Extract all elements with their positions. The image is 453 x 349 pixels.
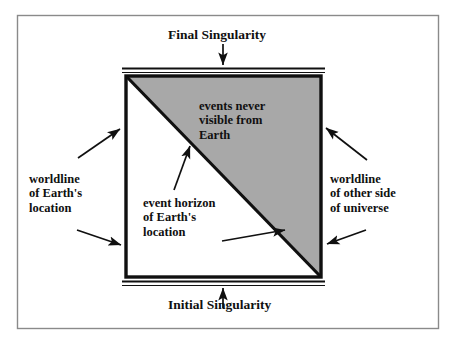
label-events-never-visible-from-earth: events never visible from Earth bbox=[199, 99, 265, 142]
label-initial-singularity: Initial Singularity bbox=[168, 297, 271, 312]
figure-canvas: Final Singularity Initial Singularity ev… bbox=[0, 0, 453, 349]
worldline-other-lower-arrow bbox=[327, 230, 366, 244]
event-horizon-upper-arrow bbox=[174, 146, 190, 190]
label-final-singularity: Final Singularity bbox=[168, 27, 266, 42]
label-worldline-of-earths-location: worldline of Earth's location bbox=[29, 172, 82, 215]
worldline-other-upper-arrow bbox=[326, 128, 367, 160]
worldline-earth-lower-arrow bbox=[77, 230, 121, 245]
label-event-horizon-of-earths-location: event horizon of Earth's location bbox=[143, 196, 216, 239]
label-worldline-of-other-side-of-universe: worldline of other side of universe bbox=[330, 172, 396, 215]
event-horizon-lower-arrow bbox=[222, 230, 285, 241]
worldline-earth-upper-arrow bbox=[78, 129, 120, 158]
